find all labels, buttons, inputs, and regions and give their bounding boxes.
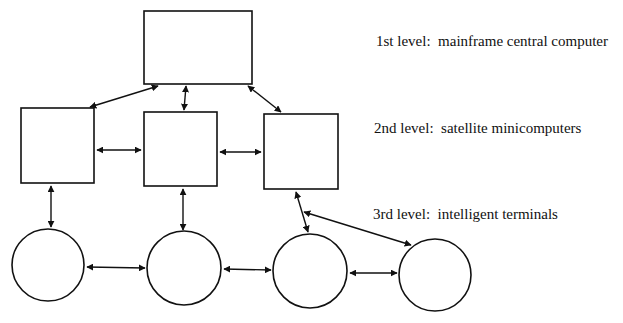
mini-center-box bbox=[144, 112, 217, 186]
mini-right-box bbox=[264, 114, 338, 189]
terminal-3-circle bbox=[273, 234, 347, 308]
connection-arrows bbox=[51, 86, 411, 273]
arrow-mainframe-to-mini-right bbox=[248, 86, 281, 112]
level-1-label: 1st level: mainframe central computer bbox=[376, 33, 608, 50]
level-2-label: 2nd level: satellite minicomputers bbox=[374, 120, 581, 137]
terminal-1-circle bbox=[12, 229, 84, 301]
terminal-2-circle bbox=[147, 231, 221, 305]
mini-left-box bbox=[21, 108, 94, 183]
arrow-mainframe-to-mini-center bbox=[184, 86, 186, 110]
mainframe-box bbox=[144, 11, 252, 84]
terminal-4-circle bbox=[399, 239, 471, 311]
arrow-terminal-1-to-terminal-2 bbox=[87, 267, 145, 268]
arrow-terminal-2-to-terminal-3 bbox=[224, 269, 271, 270]
computer-nodes bbox=[12, 11, 471, 311]
arrow-mainframe-to-mini-left bbox=[90, 86, 158, 107]
level-3-label: 3rd level: intelligent terminals bbox=[373, 206, 558, 223]
